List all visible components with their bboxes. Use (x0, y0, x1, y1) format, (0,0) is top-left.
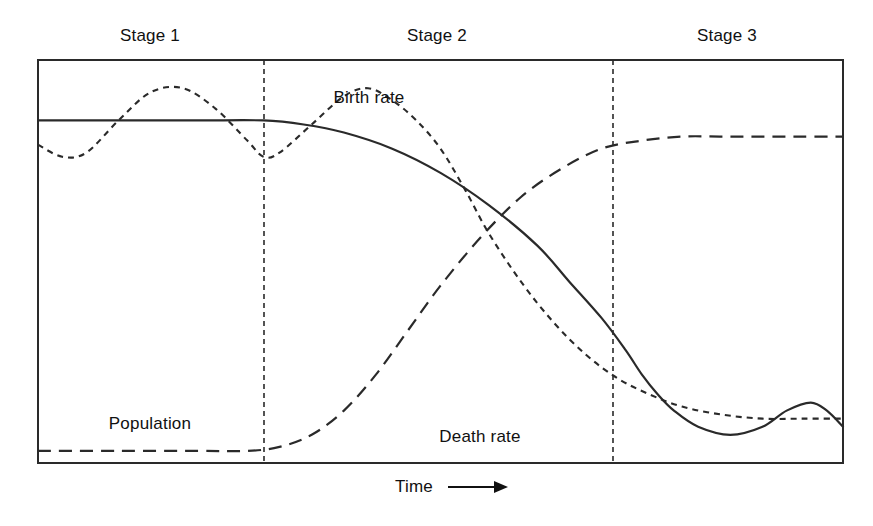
birth-rate-curve (38, 120, 843, 435)
stage-label-3: Stage 3 (697, 26, 757, 46)
chart-canvas (0, 0, 873, 526)
stage-label-2: Stage 2 (407, 26, 467, 46)
stage-divider-group (264, 60, 613, 463)
death-rate-label: Death rate (439, 427, 520, 447)
x-axis-label-text: Time (395, 477, 433, 497)
stage-label-1: Stage 1 (120, 26, 180, 46)
time-arrow-icon (448, 481, 508, 493)
birth-rate-label: Birth rate (334, 88, 405, 108)
demographic-transition-figure: Stage 1 Stage 2 Stage 3 Birth rate Popul… (0, 0, 873, 526)
x-axis-label: Time (395, 477, 433, 497)
population-label: Population (109, 414, 191, 434)
population-curve (38, 136, 843, 451)
